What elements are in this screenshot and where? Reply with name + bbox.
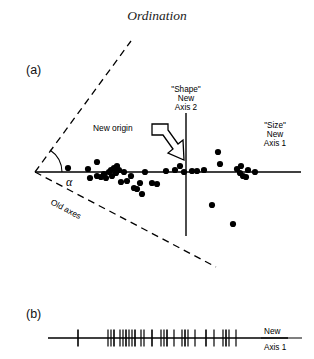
data-point	[124, 178, 130, 184]
panel-a: (a) α Old axes "Shape" New Axis 2 "Size"	[26, 41, 301, 267]
panel-b: (b) New Axis 1	[26, 307, 302, 352]
data-point	[134, 186, 140, 192]
new-axis-1-label-line-1: "Size"	[264, 121, 286, 130]
panel-b-axis-label-line-1: New	[264, 327, 280, 336]
new-axis-1-label-line-2: New	[267, 130, 283, 139]
data-point	[87, 175, 93, 181]
data-point	[243, 174, 249, 180]
data-point	[142, 169, 148, 175]
data-point	[209, 202, 215, 208]
data-point	[65, 165, 71, 171]
data-point	[252, 169, 258, 175]
data-point	[215, 149, 221, 155]
data-point	[128, 173, 134, 179]
data-point	[201, 167, 207, 173]
data-point	[121, 169, 127, 175]
panel-b-label: (b)	[26, 307, 41, 321]
data-point	[85, 166, 91, 172]
data-point	[139, 191, 145, 197]
new-axis-2-label-line-1: "Shape"	[171, 85, 201, 94]
data-point	[245, 167, 251, 173]
new-axis-2-label-line-2: New	[178, 94, 194, 103]
new-origin-label: New origin	[93, 123, 133, 133]
data-point	[238, 163, 244, 169]
new-axis-2-label: "Shape" New Axis 2	[171, 85, 201, 112]
figure-title: Ordination	[127, 8, 187, 23]
panel-a-label: (a)	[26, 63, 41, 77]
new-origin-arrow-icon	[152, 124, 184, 160]
data-point	[181, 169, 187, 175]
new-axis-1-label-line-3: Axis 1	[264, 139, 287, 148]
figure-canvas: Ordination (a) α Old axes "Shape" New Ax…	[0, 0, 314, 359]
data-point	[172, 167, 178, 173]
data-point	[118, 179, 124, 185]
data-point	[154, 181, 160, 187]
data-point	[230, 221, 236, 227]
data-point	[103, 175, 109, 181]
data-point	[94, 159, 100, 165]
data-point	[163, 168, 169, 174]
new-axis-2-label-line-3: Axis 2	[175, 103, 198, 112]
panel-b-axis-label: New Axis 1	[264, 327, 287, 352]
old-axes-label: Old axes	[49, 197, 83, 221]
ordination-figure: Ordination (a) α Old axes "Shape" New Ax…	[0, 0, 314, 359]
data-point	[217, 161, 223, 167]
new-axis-1-label: "Size" New Axis 1	[264, 121, 287, 148]
data-point	[177, 163, 183, 169]
data-point	[137, 180, 143, 186]
angle-arc	[50, 150, 62, 172]
panel-b-axis-label-line-2: Axis 1	[264, 343, 287, 352]
old-axis-upper-dashed-line	[35, 41, 131, 172]
data-point	[194, 168, 200, 174]
old-axis-lower-dashed-line	[35, 172, 216, 267]
scatter-points-group	[65, 149, 258, 227]
angle-alpha-label: α	[66, 175, 73, 189]
